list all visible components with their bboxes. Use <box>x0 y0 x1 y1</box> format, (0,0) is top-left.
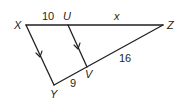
segment-yz <box>54 25 163 85</box>
segment-xy <box>26 25 54 85</box>
vertex-label-y: Y <box>50 88 58 100</box>
length-label-uz: x <box>113 10 120 22</box>
triangle-diagram: X U Z V Y 10 x 9 16 <box>0 0 181 103</box>
vertex-label-u: U <box>63 10 71 22</box>
segment-uv <box>68 25 87 67</box>
length-label-vz: 16 <box>119 52 131 64</box>
length-label-xu: 10 <box>42 10 54 22</box>
vertex-label-z: Z <box>166 19 175 31</box>
vertex-label-x: X <box>13 19 22 31</box>
vertex-label-v: V <box>85 68 94 80</box>
length-label-yv: 9 <box>70 77 76 89</box>
